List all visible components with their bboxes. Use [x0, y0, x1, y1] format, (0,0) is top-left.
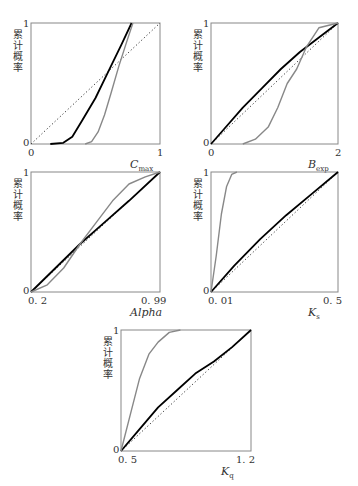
- y-axis-label: 累计概率: [9, 178, 24, 222]
- panel-ks: 100. 010. 5累计概率Ks: [180, 149, 358, 314]
- x-tick-right: 0. 5: [323, 296, 342, 306]
- series-uniform-line: [31, 23, 160, 144]
- series-black-line: [50, 23, 131, 144]
- y-axis-label: 累计概率: [99, 336, 114, 380]
- x-axis-label: Ks: [308, 306, 320, 321]
- series-gray-line: [121, 330, 180, 451]
- y-tick-top: 1: [203, 168, 209, 178]
- y-axis-label: 累计概率: [189, 29, 204, 73]
- series-gray-line: [211, 172, 237, 292]
- y-axis-label: 累计概率: [9, 29, 24, 73]
- series-black-line: [31, 172, 160, 292]
- y-axis-label: 累计概率: [189, 178, 204, 222]
- y-tick-top: 1: [23, 168, 29, 178]
- panel-alpha: 100. 20. 99累计概率Alpha: [0, 149, 179, 314]
- series-gray-line: [243, 23, 338, 144]
- panel-kq: 100. 51. 2累计概率Kq: [90, 307, 269, 477]
- series-black-line: [121, 330, 251, 451]
- plot-frame: [31, 23, 160, 144]
- y-tick-top: 1: [23, 19, 29, 29]
- series-gray-line: [85, 23, 133, 144]
- series-uniform-line: [211, 172, 338, 292]
- x-axis-label: Kq: [221, 465, 234, 480]
- series-uniform-line: [211, 23, 338, 144]
- y-tick-top: 1: [113, 326, 119, 336]
- x-tick-left: 0. 5: [118, 455, 137, 465]
- x-tick-left: 0. 2: [28, 296, 47, 306]
- x-tick-right: 1. 2: [236, 455, 255, 465]
- x-tick-right: 0. 99: [141, 296, 166, 306]
- y-tick-top: 1: [203, 19, 209, 29]
- x-tick-left: 0. 01: [208, 296, 233, 306]
- panel-bexp: 1002累计概率Bexp: [180, 0, 358, 160]
- panel-cmax: 1001累计概率Cmax: [0, 0, 179, 160]
